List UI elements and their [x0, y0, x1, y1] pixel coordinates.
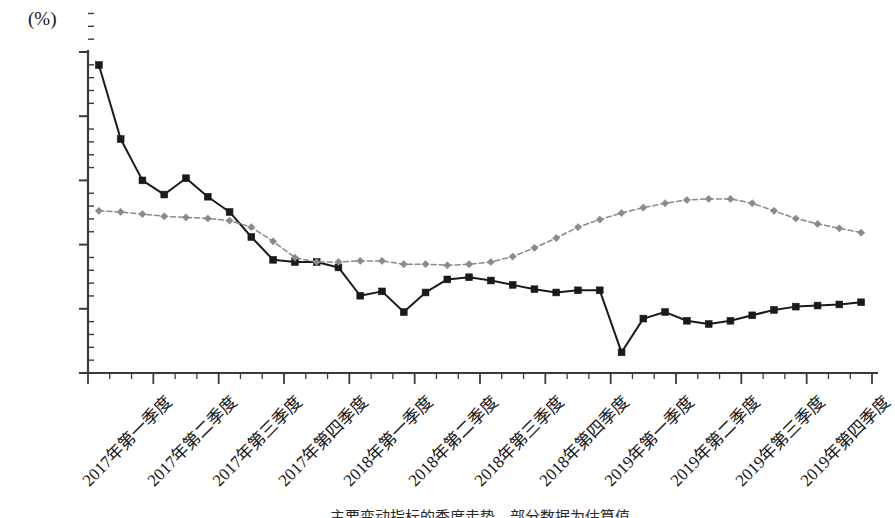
figure-caption: 主要变动指标的季度走势，部分数据为估算值 — [330, 505, 883, 518]
